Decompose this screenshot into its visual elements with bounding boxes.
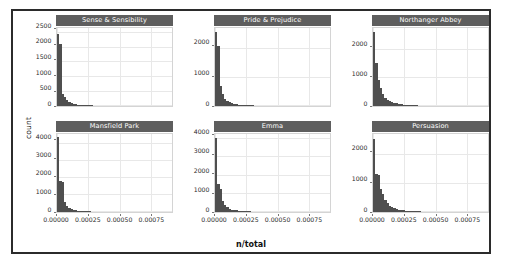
x-tick-mark <box>278 214 279 216</box>
panel-inner <box>215 134 330 212</box>
gridline-vertical <box>120 28 121 106</box>
y-tick-mark <box>370 46 372 47</box>
y-tick-label: 1000 <box>185 187 213 193</box>
facet-panel-mansfield-park: Mansfield Park010002000300040000.000000.… <box>27 121 175 225</box>
facet-strip-label-pride-prejudice: Pride & Prejudice <box>214 15 331 26</box>
x-tick-label: 0.00075 <box>297 216 323 223</box>
plot-panel-emma <box>214 133 331 213</box>
gridline-horizontal <box>373 154 488 155</box>
y-tick-label: 1500 <box>27 54 55 60</box>
x-tick-mark <box>120 214 121 216</box>
y-tick-label: 0 <box>343 101 371 107</box>
x-tick-label: 0.00000 <box>359 216 385 223</box>
facet-panel-northanger-abbey: Northanger Abbey010002000 <box>343 15 491 119</box>
x-tick-mark <box>309 214 310 216</box>
x-tick-mark <box>467 214 468 216</box>
y-tick-label: 2000 <box>27 38 55 44</box>
gridline-vertical <box>246 134 247 212</box>
y-tick-label: 0 <box>27 101 55 107</box>
gridline-vertical <box>278 28 279 106</box>
y-tick-label: 2000 <box>343 145 371 151</box>
y-tick-label: 4000 <box>185 129 213 135</box>
gridline-vertical <box>404 28 405 106</box>
panel-inner <box>57 28 172 106</box>
x-axis-ticks: 0.000000.000250.000500.00075 <box>56 214 173 225</box>
y-tick-label: 0 <box>185 101 213 107</box>
y-tick-mark <box>54 75 56 76</box>
plot-panel-northanger-abbey <box>372 27 489 107</box>
x-tick-mark <box>404 214 405 216</box>
facet-row-top: Sense & Sensibility05001000150020002500P… <box>13 15 489 119</box>
facet-panel-pride-prejudice: Pride & Prejudice010002000 <box>185 15 333 119</box>
x-tick-label: 0.00050 <box>107 216 133 223</box>
panel-inner <box>215 28 330 106</box>
gridline-horizontal <box>373 183 488 184</box>
panel-inner <box>57 134 172 212</box>
y-tick-mark <box>54 28 56 29</box>
y-tick-mark <box>212 45 214 46</box>
gridline-vertical <box>309 28 310 106</box>
y-tick-label: 1000 <box>185 70 213 76</box>
panel-inner <box>373 134 488 212</box>
y-tick-mark <box>212 193 214 194</box>
facet-panel-emma: Emma010002000300040000.000000.000250.000… <box>185 121 333 225</box>
y-tick-label: 1000 <box>27 70 55 76</box>
x-axis-ticks: 0.000000.000250.000500.00075 <box>372 214 489 225</box>
facet-strip-label-sense-sensibility: Sense & Sensibility <box>56 15 173 26</box>
gridline-vertical <box>467 28 468 106</box>
y-tick-mark <box>212 76 214 77</box>
panel-inner <box>373 28 488 106</box>
facet-strip-label-persuasion: Persuasion <box>372 121 489 132</box>
y-tick-mark <box>54 139 56 140</box>
gridline-vertical <box>120 134 121 212</box>
x-axis-ticks: 0.000000.000250.000500.00075 <box>214 214 331 225</box>
facet-panel-persuasion: Persuasion0100020000.000000.000250.00050… <box>343 121 491 225</box>
gridline-vertical <box>88 28 89 106</box>
x-axis-title: n/total <box>13 240 489 249</box>
y-tick-mark <box>54 176 56 177</box>
gridline-vertical <box>467 134 468 212</box>
gridline-horizontal <box>57 143 172 144</box>
y-tick-label: 0 <box>27 207 55 213</box>
y-tick-label: 1000 <box>343 71 371 77</box>
x-tick-label: 0.00025 <box>391 216 417 223</box>
x-tick-label: 0.00025 <box>75 216 101 223</box>
plot-panel-mansfield-park <box>56 133 173 213</box>
y-tick-mark <box>370 106 372 107</box>
gridline-horizontal <box>57 76 172 77</box>
gridline-vertical <box>88 134 89 212</box>
gridline-vertical <box>436 134 437 212</box>
y-tick-label: 2000 <box>343 41 371 47</box>
gridline-vertical <box>151 28 152 106</box>
y-tick-mark <box>212 106 214 107</box>
gridline-horizontal <box>215 48 330 49</box>
gridline-vertical <box>278 134 279 212</box>
y-tick-label: 1000 <box>27 189 55 195</box>
gridline-vertical <box>309 134 310 212</box>
y-tick-mark <box>212 134 214 135</box>
facet-strip-label-emma: Emma <box>214 121 331 132</box>
gridline-horizontal <box>215 193 330 194</box>
y-tick-label: 1000 <box>343 176 371 182</box>
y-tick-mark <box>212 173 214 174</box>
y-tick-mark <box>212 212 214 213</box>
facet-strip-label-northanger-abbey: Northanger Abbey <box>372 15 489 26</box>
facet-panel-sense-sensibility: Sense & Sensibility05001000150020002500 <box>27 15 175 119</box>
gridline-horizontal <box>57 32 172 33</box>
y-tick-label: 2500 <box>27 23 55 29</box>
y-tick-mark <box>370 76 372 77</box>
x-tick-mark <box>88 214 89 216</box>
plot-panel-persuasion <box>372 133 489 213</box>
y-tick-label: 3000 <box>27 152 55 158</box>
gridline-vertical <box>246 28 247 106</box>
y-tick-label: 0 <box>343 207 371 213</box>
y-tick-mark <box>54 212 56 213</box>
y-tick-mark <box>212 154 214 155</box>
gridline-horizontal <box>57 91 172 92</box>
gridline-horizontal <box>215 77 330 78</box>
gridline-vertical <box>404 134 405 212</box>
x-tick-mark <box>246 214 247 216</box>
plot-panel-pride-prejudice <box>214 27 331 107</box>
y-tick-mark <box>370 212 372 213</box>
facet-strip-label-mansfield-park: Mansfield Park <box>56 121 173 132</box>
